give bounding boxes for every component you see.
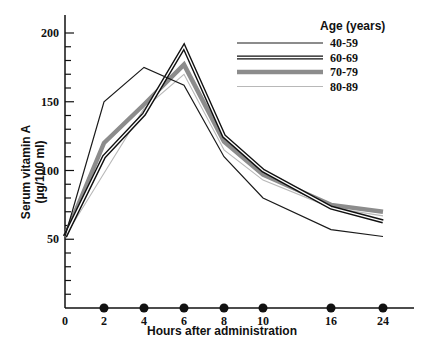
x-tick-label: 24: [377, 314, 389, 328]
legend-item: 80-89: [237, 80, 358, 94]
x-axis-title: Hours after administration: [147, 324, 297, 338]
legend: Age (years)40-5960-6970-7980-89: [237, 19, 385, 94]
legend-item: 70-79: [237, 65, 358, 79]
legend-label: 80-89: [330, 80, 358, 94]
y-axis-units: (µg/100 ml): [33, 141, 47, 204]
sample-marker: [327, 304, 336, 313]
y-tick-label: 150: [41, 95, 59, 109]
legend-title: Age (years): [320, 19, 385, 33]
sample-marker: [180, 304, 189, 313]
legend-item: 40-59: [237, 36, 358, 50]
sample-marker: [259, 304, 268, 313]
x-tick-label: 16: [325, 314, 337, 328]
x-tick-label: 2: [101, 314, 107, 328]
x-tick-label: 0: [62, 314, 68, 328]
y-tick-label: 50: [47, 232, 59, 246]
y-tick-label: 200: [41, 26, 59, 40]
y-axis-title: Serum vitamin A: [19, 125, 33, 220]
legend-label: 60-69: [330, 51, 358, 65]
series-80-89: [65, 74, 383, 236]
sample-marker: [220, 304, 229, 313]
sample-marker: [100, 304, 109, 313]
legend-item: 60-69: [237, 51, 358, 65]
sample-marker: [379, 304, 388, 313]
sample-marker: [140, 304, 149, 313]
legend-label: 40-59: [330, 36, 358, 50]
line-chart: 5010015020002468101624 Age (years)40-596…: [0, 0, 437, 351]
legend-label: 70-79: [330, 65, 358, 79]
